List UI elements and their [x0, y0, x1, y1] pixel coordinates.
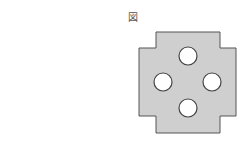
cross-plate-diagram [0, 0, 243, 164]
hole-bottom [179, 99, 197, 117]
hole-top [179, 47, 197, 65]
hole-right [203, 73, 221, 91]
hole-left [154, 73, 172, 91]
